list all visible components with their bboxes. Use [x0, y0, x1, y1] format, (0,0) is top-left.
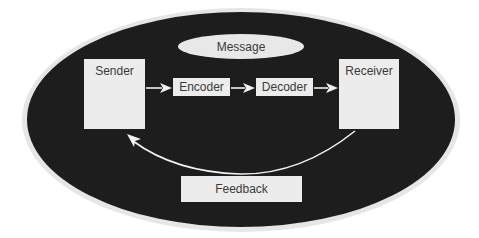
arrow-decoder-to-receiver	[314, 83, 338, 93]
arrow-encoder-to-decoder	[231, 83, 255, 93]
arrow-feedback-curve	[127, 131, 355, 174]
arrows-layer	[0, 0, 479, 238]
communication-diagram: Message Sender Encoder Decoder Receiver …	[0, 0, 479, 238]
arrow-sender-to-encoder	[146, 83, 172, 93]
